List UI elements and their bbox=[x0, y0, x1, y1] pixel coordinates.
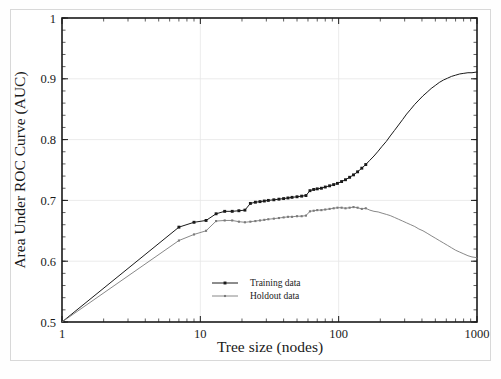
auc-vs-tree-size-chart: 11010010000.50.60.70.80.91 Training data… bbox=[0, 0, 501, 379]
x-tick-label: 100 bbox=[329, 327, 348, 341]
y-tick-label: 0.8 bbox=[40, 133, 56, 147]
axis-ticks bbox=[62, 18, 477, 322]
chart-legend: Training dataHoldout data bbox=[212, 278, 301, 301]
x-tick-label: 1 bbox=[59, 327, 65, 341]
y-tick-label: 0.7 bbox=[40, 194, 56, 208]
legend-label: Training data bbox=[250, 278, 301, 288]
legend-label: Holdout data bbox=[250, 291, 300, 301]
y-tick-label: 0.5 bbox=[40, 316, 56, 330]
chart-figure: 11010010000.50.60.70.80.91 Training data… bbox=[0, 0, 501, 379]
y-axis-title: Area Under ROC Curve (AUC) bbox=[11, 71, 29, 268]
x-axis-title: Tree size (nodes) bbox=[217, 338, 323, 356]
plot-frame bbox=[62, 18, 477, 322]
y-tick-label: 0.6 bbox=[40, 255, 56, 269]
gridlines bbox=[62, 18, 477, 322]
x-tick-label: 1000 bbox=[465, 327, 490, 341]
x-tick-label: 10 bbox=[194, 327, 207, 341]
y-tick-label: 0.9 bbox=[40, 72, 56, 86]
y-tick-label: 1 bbox=[50, 12, 56, 26]
